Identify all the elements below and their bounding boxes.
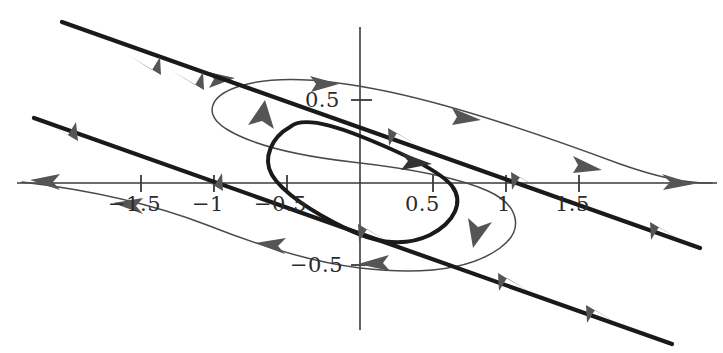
inner-orbit-thick-trajectory [268,122,457,242]
axes-group [17,27,717,330]
x-tick-label-1: 1 [497,192,511,216]
eigendirection-line-lower [34,118,672,344]
y-tick-label--0.5: −0.5 [290,253,343,277]
outer-spiral-path [22,80,712,271]
eigenline-upper-arrow-b [171,70,204,90]
eigenline-lower-path [34,118,672,344]
inner-orbit-path [268,122,457,242]
x-tick-label--0.5: −0.5 [254,192,307,216]
x-tick-label--1.5: −1.5 [108,192,161,216]
outer-spiral-thin-trajectory [22,72,712,271]
eigenline-lower-arrow-b [190,171,223,191]
x-tick-label--1: −1 [192,192,224,216]
phase-portrait-figure: −1.5 −1 −0.5 0.5 1 1.5 0.5 −0.5 [0,0,723,353]
spiral-arrow-inner-descend [468,218,492,248]
spiral-arrow-left-ascend [248,100,274,129]
eigenline-upper-arrow-a [128,55,161,75]
spiral-arrow-far-left [30,174,60,190]
phase-portrait-canvas [0,0,723,353]
x-tick-label-0.5: 0.5 [405,192,440,216]
x-tick-label-1.5: 1.5 [555,192,590,216]
y-tick-label-0.5: 0.5 [305,88,340,112]
spiral-arrow-lower-left [255,238,286,254]
spiral-arrow-top-right [452,108,481,125]
spiral-arrow-right-descend [573,156,602,173]
